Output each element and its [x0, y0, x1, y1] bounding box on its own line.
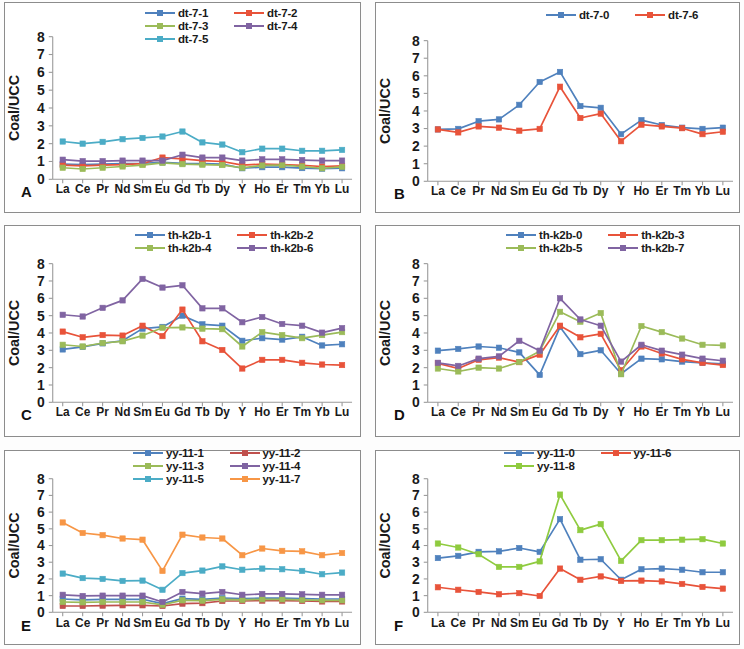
- x-tick-label-Ho: Ho: [633, 616, 649, 630]
- data-point-marker: [557, 84, 562, 89]
- data-point-marker: [537, 372, 542, 377]
- x-tick-label-Ho: Ho: [633, 184, 649, 198]
- data-point-marker: [160, 158, 165, 163]
- data-point-marker: [299, 336, 304, 341]
- data-point-marker: [80, 166, 85, 171]
- data-point-marker: [180, 532, 185, 537]
- data-point-marker: [319, 572, 324, 577]
- x-tick-label-Yb: Yb: [314, 616, 329, 630]
- data-point-marker: [496, 345, 501, 350]
- panel-E-frame: yy-11-1yy-11-2yy-11-3yy-11-4yy-11-5yy-11…: [4, 450, 361, 645]
- data-point-marker: [476, 356, 481, 361]
- data-point-marker: [299, 360, 304, 365]
- data-point-marker: [496, 125, 501, 130]
- data-point-marker: [160, 285, 165, 290]
- x-tick-label-Y: Y: [238, 616, 246, 630]
- data-point-marker: [720, 586, 725, 591]
- x-tick-label-Y: Y: [238, 182, 246, 196]
- data-point-marker: [720, 541, 725, 546]
- y-tick-label: 2: [412, 360, 420, 376]
- data-point-marker: [299, 592, 304, 597]
- x-tick-label-La: La: [431, 405, 445, 419]
- y-tick-label: 6: [412, 504, 420, 520]
- x-tick-label-Eu: Eu: [155, 616, 170, 630]
- x-tick-label-Pr: Pr: [96, 405, 109, 419]
- rare-earth-element-figure: dt-7-1dt-7-2dt-7-3dt-7-4dt-7-5 012345678…: [0, 0, 744, 649]
- data-point-marker: [200, 568, 205, 573]
- data-point-marker: [435, 366, 440, 371]
- data-point-marker: [260, 314, 265, 319]
- x-tick-label-Tb: Tb: [195, 405, 210, 419]
- panel-letter: E: [21, 618, 31, 634]
- data-point-marker: [260, 597, 265, 602]
- x-tick-label-Eu: Eu: [532, 184, 547, 198]
- y-tick-label: 1: [412, 588, 420, 604]
- data-point-marker: [200, 306, 205, 311]
- data-point-marker: [496, 549, 501, 554]
- panel-F-frame: yy-11-0yy-11-6yy-11-8 012345678LaCePrNdS…: [375, 450, 740, 645]
- data-point-marker: [100, 139, 105, 144]
- data-point-marker: [100, 340, 105, 345]
- data-point-marker: [496, 592, 501, 597]
- x-tick-label-Ho: Ho: [254, 405, 270, 419]
- data-point-marker: [140, 135, 145, 140]
- data-point-marker: [120, 158, 125, 163]
- data-point-marker: [60, 329, 65, 334]
- data-point-marker: [537, 593, 542, 598]
- y-tick-label: 1: [37, 588, 45, 604]
- x-tick-label-Gd: Gd: [552, 405, 569, 419]
- data-point-marker: [100, 332, 105, 337]
- data-point-marker: [578, 335, 583, 340]
- data-point-marker: [220, 589, 225, 594]
- data-point-marker: [456, 130, 461, 135]
- data-point-marker: [476, 589, 481, 594]
- data-point-marker: [598, 310, 603, 315]
- y-tick-label: 3: [412, 342, 420, 358]
- data-point-marker: [618, 139, 623, 144]
- x-tick-label-Tm: Tm: [673, 184, 691, 198]
- data-point-marker: [517, 359, 522, 364]
- x-tick-label-Sm: Sm: [510, 405, 529, 419]
- data-point-marker: [720, 343, 725, 348]
- x-tick-label-Eu: Eu: [155, 405, 170, 419]
- data-point-marker: [659, 579, 664, 584]
- data-point-marker: [160, 134, 165, 139]
- x-tick-label-Sm: Sm: [133, 405, 152, 419]
- x-tick-label-Er: Er: [276, 182, 289, 196]
- data-point-marker: [659, 538, 664, 543]
- x-tick-label-Ce: Ce: [451, 184, 467, 198]
- x-tick-label-Yb: Yb: [695, 405, 710, 419]
- data-point-marker: [200, 326, 205, 331]
- y-tick-label: 3: [412, 121, 420, 137]
- x-tick-label-Ce: Ce: [451, 405, 467, 419]
- data-point-marker: [220, 564, 225, 569]
- data-point-marker: [120, 578, 125, 583]
- data-point-marker: [659, 329, 664, 334]
- x-tick-label-Er: Er: [276, 616, 289, 630]
- y-tick-label: 8: [37, 471, 45, 487]
- panel-D-frame: th-k2b-0th-k2b-3th-k2b-5th-k2b-7 0123456…: [375, 225, 740, 437]
- y-tick-label: 0: [37, 171, 45, 187]
- data-point-marker: [435, 127, 440, 132]
- data-point-marker: [120, 333, 125, 338]
- data-point-marker: [435, 541, 440, 546]
- data-point-marker: [80, 530, 85, 535]
- data-point-marker: [537, 348, 542, 353]
- data-point-marker: [280, 357, 285, 362]
- x-tick-label-Y: Y: [238, 405, 246, 419]
- data-point-marker: [299, 157, 304, 162]
- data-point-marker: [339, 158, 344, 163]
- data-point-marker: [557, 323, 562, 328]
- data-point-marker: [140, 593, 145, 598]
- data-point-marker: [618, 578, 623, 583]
- x-tick-label-Nd: Nd: [115, 616, 131, 630]
- data-point-marker: [517, 590, 522, 595]
- data-point-marker: [240, 366, 245, 371]
- x-tick-label-La: La: [431, 184, 445, 198]
- data-point-marker: [517, 350, 522, 355]
- x-tick-label-Tb: Tb: [195, 182, 210, 196]
- data-point-marker: [537, 126, 542, 131]
- x-tick-label-Ho: Ho: [254, 616, 270, 630]
- x-tick-label-Yb: Yb: [695, 184, 710, 198]
- data-point-marker: [299, 597, 304, 602]
